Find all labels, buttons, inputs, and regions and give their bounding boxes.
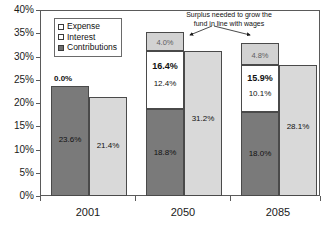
bar-label-2085-contributions: 18.0% xyxy=(242,149,278,158)
bar-2001-expense[interactable]: 21.4% xyxy=(89,97,127,197)
bar-2085-contributions[interactable]: 18.0% xyxy=(241,112,279,196)
bar-label-2001-expense: 21.4% xyxy=(90,141,126,150)
ytick-label-0: 0% xyxy=(0,191,34,201)
legend-label-contributions: Contributions xyxy=(67,43,117,52)
legend-swatch-expense-icon xyxy=(58,24,64,30)
chart-legend[interactable]: Expense Interest Contributions xyxy=(54,18,122,57)
ytick-label-20: 20% xyxy=(0,98,34,108)
xtick-label-2001: 2001 xyxy=(48,206,128,218)
bar-2085-interest[interactable]: 15.9% 10.1% xyxy=(241,65,279,112)
bar-2050-interest[interactable]: 16.4% 12.4% xyxy=(146,51,184,109)
legend-swatch-interest-icon xyxy=(58,34,64,40)
bar-label-2085-expense: 28.1% xyxy=(280,122,316,131)
legend-item-contributions[interactable]: Contributions xyxy=(58,43,117,53)
ytick-label-10: 10% xyxy=(0,145,34,155)
ytick-label-30: 30% xyxy=(0,52,34,62)
bar-2085-expense[interactable]: 28.1% xyxy=(279,65,317,196)
xtick-mark-right xyxy=(320,196,321,201)
bar-label-2085-interest-sub: 10.1% xyxy=(242,89,278,98)
ytick-label-35: 35% xyxy=(0,28,34,38)
bar-label-2001-outside-top: 0.0% xyxy=(54,74,72,83)
bar-2050-expense[interactable]: 31.2% xyxy=(184,51,222,196)
annotation-arrows xyxy=(150,24,270,54)
bar-2001-contributions[interactable]: 23.6% xyxy=(51,86,89,196)
chart-container: 40% 35% 30% 25% 20% 15% 10% 5% 0% 23.6% … xyxy=(0,0,328,228)
legend-item-expense[interactable]: Expense xyxy=(58,22,117,32)
bar-label-2085-interest-bold: 15.9% xyxy=(242,74,278,83)
legend-swatch-contributions-icon xyxy=(58,45,64,51)
ytick-label-5: 5% xyxy=(0,168,34,178)
ytick-label-25: 25% xyxy=(0,75,34,85)
annotation-arrow-left xyxy=(190,26,212,35)
legend-item-interest[interactable]: Interest xyxy=(58,32,117,42)
xtick-mark-1 xyxy=(135,196,136,201)
xtick-mark-left xyxy=(40,196,41,201)
bar-label-2050-interest-bold: 16.4% xyxy=(147,62,183,71)
annotation-line-1: Surplus needed to grow the xyxy=(168,11,290,20)
bar-label-2050-expense: 31.2% xyxy=(185,114,221,123)
bar-label-2050-interest-sub: 12.4% xyxy=(147,79,183,88)
ytick-label-40: 40% xyxy=(0,5,34,15)
bar-2050-contributions[interactable]: 18.8% xyxy=(146,109,184,196)
legend-label-interest: Interest xyxy=(67,33,95,42)
bar-label-2050-contributions: 18.8% xyxy=(147,148,183,157)
legend-label-expense: Expense xyxy=(67,22,100,31)
xtick-mark-2 xyxy=(230,196,231,201)
xtick-label-2085: 2085 xyxy=(238,206,318,218)
bar-label-2001-contributions: 23.6% xyxy=(52,135,88,144)
xtick-label-2050: 2050 xyxy=(143,206,223,218)
annotation-arrow-right xyxy=(214,26,250,35)
ytick-label-15: 15% xyxy=(0,121,34,131)
